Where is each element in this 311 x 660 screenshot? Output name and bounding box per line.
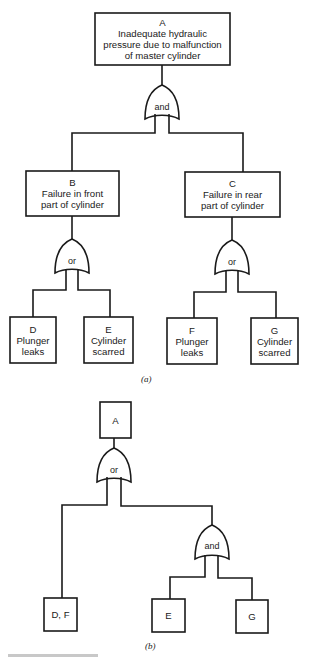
event-id: C	[229, 178, 236, 189]
and-gate-label: and	[195, 541, 229, 551]
event-g-b: G	[236, 600, 268, 633]
event-text: Inadequate hydraulic	[118, 28, 207, 39]
event-d: D Plunger leaks	[10, 317, 56, 363]
or-gate-label: or	[97, 465, 131, 475]
event-g: G Cylinder scarred	[251, 318, 298, 364]
event-df: D, F	[44, 598, 77, 631]
top-event-b-diagram: A	[100, 402, 131, 438]
event-id: D	[30, 324, 37, 335]
event-text: leaks	[181, 347, 203, 358]
caption-a: (a)	[141, 374, 152, 384]
event-id: A	[112, 415, 118, 426]
event-text: Plunger	[175, 336, 208, 347]
event-text: Plunger	[16, 335, 49, 346]
event-id: D, F	[51, 609, 69, 620]
event-id: A	[159, 17, 165, 28]
event-id: G	[271, 325, 278, 336]
event-id: F	[189, 325, 195, 336]
event-text: Failure in rear	[203, 189, 262, 200]
event-id: E	[165, 610, 171, 621]
event-text: pressure due to malfunction	[103, 39, 221, 50]
event-text: leaks	[22, 346, 44, 357]
or-gate-label-b: or	[55, 256, 89, 266]
event-e-b: E	[152, 599, 185, 632]
event-id: B	[69, 177, 75, 188]
event-e: E Cylinder scarred	[84, 317, 133, 363]
event-id: E	[105, 324, 111, 335]
event-id: G	[248, 611, 255, 622]
event-text: Cylinder	[91, 335, 126, 346]
event-b: B Failure in front part of cylinder	[26, 171, 119, 216]
event-text: Failure in front	[42, 188, 103, 199]
or-gate-label-c: or	[215, 257, 249, 267]
event-text: scarred	[93, 346, 125, 357]
event-f: F Plunger leaks	[167, 318, 217, 364]
and-gate-label: and	[145, 102, 179, 112]
event-text: of master cylinder	[125, 50, 201, 61]
event-text: scarred	[259, 347, 291, 358]
event-c: C Failure in rear part of cylinder	[185, 172, 280, 217]
event-text: part of cylinder	[41, 199, 104, 210]
top-event-a: A Inadequate hydraulic pressure due to m…	[95, 13, 230, 65]
event-text: part of cylinder	[201, 200, 264, 211]
caption-b: (b)	[145, 641, 156, 651]
event-text: Cylinder	[257, 336, 292, 347]
figure-caption-cut-off	[8, 654, 98, 657]
